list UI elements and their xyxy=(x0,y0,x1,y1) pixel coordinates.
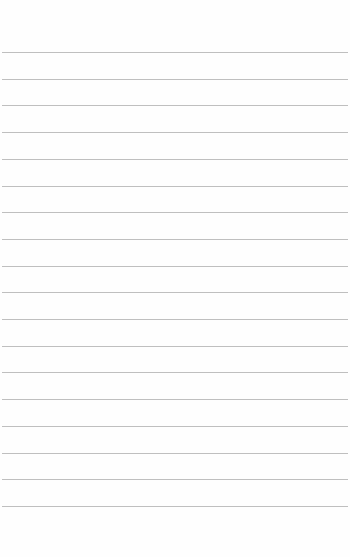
ruled-line xyxy=(2,239,348,240)
lined-paper-page xyxy=(0,0,350,557)
ruled-line xyxy=(2,506,348,507)
ruled-line xyxy=(2,399,348,400)
ruled-line xyxy=(2,132,348,133)
ruled-line xyxy=(2,52,348,53)
ruled-line xyxy=(2,426,348,427)
ruled-line xyxy=(2,319,348,320)
ruled-line xyxy=(2,479,348,480)
ruled-line xyxy=(2,186,348,187)
ruled-line xyxy=(2,212,348,213)
ruled-line xyxy=(2,292,348,293)
ruled-line xyxy=(2,453,348,454)
ruled-line xyxy=(2,346,348,347)
ruled-line xyxy=(2,79,348,80)
ruled-line xyxy=(2,266,348,267)
ruled-line xyxy=(2,159,348,160)
ruled-line xyxy=(2,105,348,106)
ruled-line xyxy=(2,372,348,373)
